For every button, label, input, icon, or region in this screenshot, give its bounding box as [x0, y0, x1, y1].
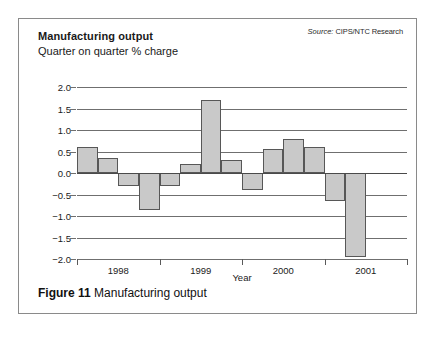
y-axis-tick-mark: [70, 109, 76, 110]
plot-area: 1998199920002001: [77, 87, 407, 259]
gridline: [77, 109, 407, 110]
y-axis-tick-label: 2.0: [37, 82, 71, 93]
y-axis-tick-mark: [70, 130, 76, 131]
bar: [118, 173, 139, 186]
y-axis-tick-label: 1.5: [37, 103, 71, 114]
x-axis-tick-mark: [77, 259, 78, 265]
y-axis-tick-mark: [70, 259, 76, 260]
y-axis-tick-label: 1.0: [37, 125, 71, 136]
y-axis-tick-mark: [70, 238, 76, 239]
x-axis-tick-mark: [325, 259, 326, 265]
y-axis-tick-label: −1.5: [37, 232, 71, 243]
y-axis-tick-label: −1.0: [37, 211, 71, 222]
y-axis-tick-labels: 2.01.51.00.50.0−0.5−1.0−1.5−2.0: [37, 87, 71, 259]
x-axis-tick-mark: [242, 259, 243, 265]
y-axis-tick-label: −2.0: [37, 254, 71, 265]
x-axis-tick-mark: [407, 259, 408, 265]
bar: [98, 158, 119, 173]
figure-caption: Figure 11 Manufacturing output: [38, 286, 207, 300]
y-axis-tick-mark: [70, 87, 76, 88]
figure-caption-text: Manufacturing output: [94, 286, 207, 300]
x-axis-title: Year: [77, 272, 407, 283]
y-axis-tick-mark: [70, 195, 76, 196]
figure-caption-number: Figure 11: [38, 286, 91, 300]
zero-baseline: [77, 173, 407, 174]
bar: [77, 147, 98, 173]
y-axis-tick-label: 0.5: [37, 146, 71, 157]
y-axis-tick-mark: [70, 152, 76, 153]
gridline: [77, 152, 407, 153]
bar: [283, 139, 304, 173]
figure-frame: Manufacturing output Quarter on quarter …: [18, 18, 417, 314]
source-attribution: Source: CIPS/NTC Research: [308, 27, 403, 36]
y-axis-tick-label: −0.5: [37, 189, 71, 200]
chart-title: Manufacturing output: [38, 30, 153, 42]
y-axis-tick-mark: [70, 173, 76, 174]
bar: [139, 173, 160, 210]
chart-subtitle: Quarter on quarter % charge: [38, 45, 178, 57]
x-axis-tick-mark: [160, 259, 161, 265]
bar: [201, 100, 222, 173]
y-axis-tick-mark: [70, 216, 76, 217]
source-value: CIPS/NTC Research: [336, 27, 404, 36]
bar: [345, 173, 366, 257]
y-axis-tick-label: 0.0: [37, 168, 71, 179]
gridline: [77, 87, 407, 88]
bar: [304, 147, 325, 173]
bar: [180, 164, 201, 173]
source-label: Source:: [308, 27, 334, 36]
bar: [263, 149, 284, 173]
bar: [160, 173, 181, 186]
bar: [242, 173, 263, 190]
bar: [325, 173, 346, 201]
gridline: [77, 130, 407, 131]
bar: [221, 160, 242, 173]
